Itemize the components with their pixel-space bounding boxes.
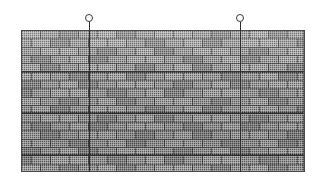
brick bbox=[203, 156, 222, 163]
brick bbox=[127, 156, 146, 163]
brick bbox=[70, 73, 89, 80]
brick bbox=[32, 56, 51, 63]
brick bbox=[165, 56, 184, 63]
brick bbox=[155, 131, 174, 138]
brick bbox=[174, 81, 193, 88]
brick bbox=[165, 73, 184, 80]
brick bbox=[174, 165, 193, 172]
brick bbox=[279, 140, 298, 147]
brick bbox=[250, 165, 269, 172]
brick bbox=[60, 131, 79, 138]
brick bbox=[174, 115, 193, 122]
brick bbox=[298, 140, 305, 147]
brick bbox=[127, 89, 146, 96]
brick bbox=[117, 48, 136, 55]
brick bbox=[241, 39, 260, 46]
brick bbox=[22, 156, 32, 163]
brick bbox=[108, 123, 127, 130]
brick bbox=[165, 156, 184, 163]
brick bbox=[136, 131, 155, 138]
brick bbox=[41, 115, 60, 122]
brick bbox=[222, 39, 241, 46]
brick bbox=[222, 123, 241, 130]
suspension-eye-right bbox=[236, 14, 244, 22]
brick bbox=[193, 115, 212, 122]
brick bbox=[98, 98, 117, 105]
brick bbox=[51, 123, 70, 130]
brick bbox=[146, 123, 165, 130]
brick bbox=[298, 156, 305, 163]
brick bbox=[41, 48, 60, 55]
brick bbox=[250, 48, 269, 55]
brick bbox=[279, 89, 298, 96]
brick bbox=[127, 73, 146, 80]
brick bbox=[41, 131, 60, 138]
brick bbox=[155, 48, 174, 55]
brick bbox=[269, 48, 288, 55]
brick bbox=[51, 73, 70, 80]
brick-course bbox=[22, 123, 304, 131]
brick bbox=[184, 39, 203, 46]
brick bbox=[193, 98, 212, 105]
brick bbox=[241, 140, 260, 147]
brick bbox=[250, 31, 269, 38]
brick bbox=[222, 89, 241, 96]
brick bbox=[155, 165, 174, 172]
brick bbox=[22, 98, 41, 105]
brick bbox=[117, 81, 136, 88]
brick bbox=[146, 140, 165, 147]
brick bbox=[279, 56, 298, 63]
brick bbox=[212, 31, 231, 38]
brick bbox=[269, 31, 288, 38]
brick bbox=[222, 140, 241, 147]
brick bbox=[184, 89, 203, 96]
brick bbox=[165, 140, 184, 147]
brick bbox=[184, 140, 203, 147]
brick bbox=[98, 115, 117, 122]
brick bbox=[51, 39, 70, 46]
brick bbox=[22, 31, 41, 38]
brick bbox=[127, 56, 146, 63]
brick bbox=[165, 39, 184, 46]
brick-course bbox=[22, 106, 304, 114]
brick bbox=[174, 98, 193, 105]
brick-course bbox=[22, 156, 304, 164]
brick bbox=[193, 31, 212, 38]
brick bbox=[279, 156, 298, 163]
brick bbox=[98, 31, 117, 38]
brick bbox=[32, 73, 51, 80]
brick bbox=[32, 140, 51, 147]
brick bbox=[98, 131, 117, 138]
brick bbox=[127, 123, 146, 130]
brick bbox=[260, 156, 279, 163]
brick-course bbox=[22, 48, 304, 56]
brick bbox=[89, 73, 108, 80]
brick bbox=[22, 131, 41, 138]
brick bbox=[108, 140, 127, 147]
brick bbox=[70, 89, 89, 96]
brick bbox=[212, 48, 231, 55]
brick bbox=[146, 73, 165, 80]
brick bbox=[269, 98, 288, 105]
brick bbox=[70, 140, 89, 147]
brick-course bbox=[22, 165, 304, 172]
brick bbox=[165, 89, 184, 96]
brick bbox=[136, 165, 155, 172]
brick bbox=[288, 115, 304, 122]
brick bbox=[127, 39, 146, 46]
brick bbox=[241, 156, 260, 163]
brick bbox=[136, 98, 155, 105]
brick bbox=[117, 165, 136, 172]
suspension-wire-right bbox=[240, 22, 241, 172]
brick bbox=[22, 73, 32, 80]
brick bbox=[155, 31, 174, 38]
brick bbox=[269, 131, 288, 138]
brick bbox=[136, 115, 155, 122]
brick bbox=[146, 156, 165, 163]
brick bbox=[222, 73, 241, 80]
brick bbox=[155, 81, 174, 88]
brick bbox=[60, 48, 79, 55]
brick-course bbox=[22, 98, 304, 106]
brick bbox=[22, 56, 32, 63]
brick bbox=[89, 39, 108, 46]
